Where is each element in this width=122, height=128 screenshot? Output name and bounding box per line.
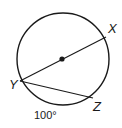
label-x: X bbox=[107, 21, 118, 36]
circle-diagram: X Y Z 100° bbox=[0, 0, 122, 128]
label-y: Y bbox=[9, 77, 19, 92]
center-point bbox=[59, 56, 64, 61]
arc-measure-label: 100° bbox=[34, 109, 57, 121]
chord-yz bbox=[20, 81, 93, 98]
label-z: Z bbox=[92, 99, 102, 114]
